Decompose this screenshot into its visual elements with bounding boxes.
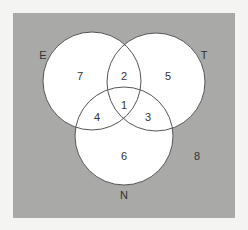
region-e-n: 4 xyxy=(94,111,100,123)
region-t-n: 3 xyxy=(145,111,151,123)
set-label-e: E xyxy=(39,49,46,61)
region-outside: 8 xyxy=(194,150,200,162)
venn-diagram: E T N 7 2 5 1 4 3 6 8 xyxy=(0,0,248,230)
region-n-only: 6 xyxy=(121,150,127,162)
region-t-only: 5 xyxy=(165,70,171,82)
region-e-t-n: 1 xyxy=(121,99,127,111)
region-e-t: 2 xyxy=(121,70,127,82)
set-label-n: N xyxy=(120,189,128,201)
region-e-only: 7 xyxy=(77,70,83,82)
set-label-t: T xyxy=(201,49,208,61)
